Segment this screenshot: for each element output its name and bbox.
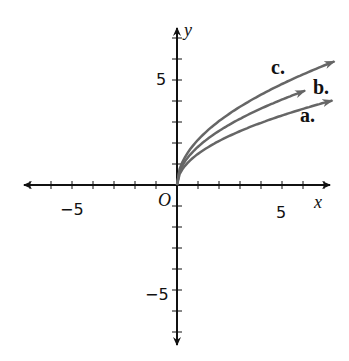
y-tick-label-5: 5 xyxy=(156,70,166,89)
y-tick-label-neg5: −5 xyxy=(145,285,169,304)
curve-label-b: b. xyxy=(313,76,329,99)
x-tick-label-5: 5 xyxy=(276,203,286,222)
curve-label-a: a. xyxy=(300,104,315,127)
x-axis-label: x xyxy=(314,192,322,213)
y-axis-label: y xyxy=(184,20,192,41)
origin-label: O xyxy=(158,190,171,211)
x-tick-label-neg5: −5 xyxy=(60,200,84,219)
coordinate-plane xyxy=(0,0,349,361)
curve-label-c: c. xyxy=(271,56,285,79)
